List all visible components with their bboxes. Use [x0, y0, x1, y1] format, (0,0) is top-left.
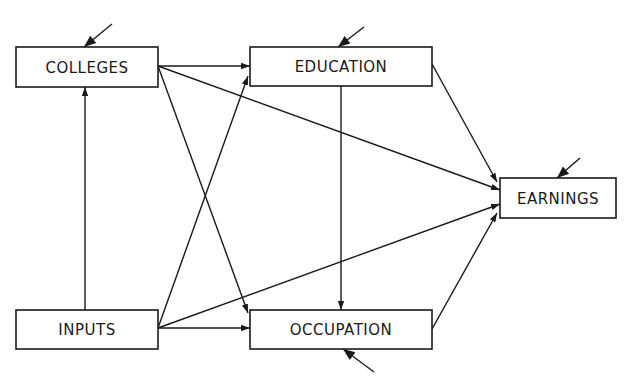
node-education: EDUCATION	[250, 47, 432, 86]
edge-occupation-to-earnings	[432, 213, 497, 329]
node-inputs: INPUTS	[16, 310, 158, 349]
node-colleges: COLLEGES	[16, 47, 158, 87]
node-text-inputs: INPUTS	[58, 321, 115, 339]
node-text-occupation: OCCUPATION	[290, 321, 393, 339]
node-earnings: EARNINGS	[500, 178, 616, 218]
edge-inputs-to-education	[158, 76, 248, 328]
node-text-colleges: COLLEGES	[45, 59, 128, 77]
nodes-layer: COLLEGESEDUCATIONEARNINGSINPUTSOCCUPATIO…	[16, 47, 616, 349]
node-text-education: EDUCATION	[295, 58, 388, 76]
node-occupation: OCCUPATION	[250, 310, 432, 349]
edge-colleges-to-occupation	[158, 66, 248, 313]
path-diagram: COLLEGESEDUCATIONEARNINGSINPUTSOCCUPATIO…	[0, 0, 627, 378]
disturbance-arrow-earnings	[557, 158, 580, 178]
disturbance-arrow-colleges	[84, 24, 112, 47]
edge-education-to-earnings	[432, 64, 497, 182]
disturbance-arrow-education	[338, 27, 364, 47]
edges-layer	[85, 64, 500, 329]
disturbance-arrow-occupation	[343, 349, 374, 372]
node-text-earnings: EARNINGS	[517, 190, 599, 208]
